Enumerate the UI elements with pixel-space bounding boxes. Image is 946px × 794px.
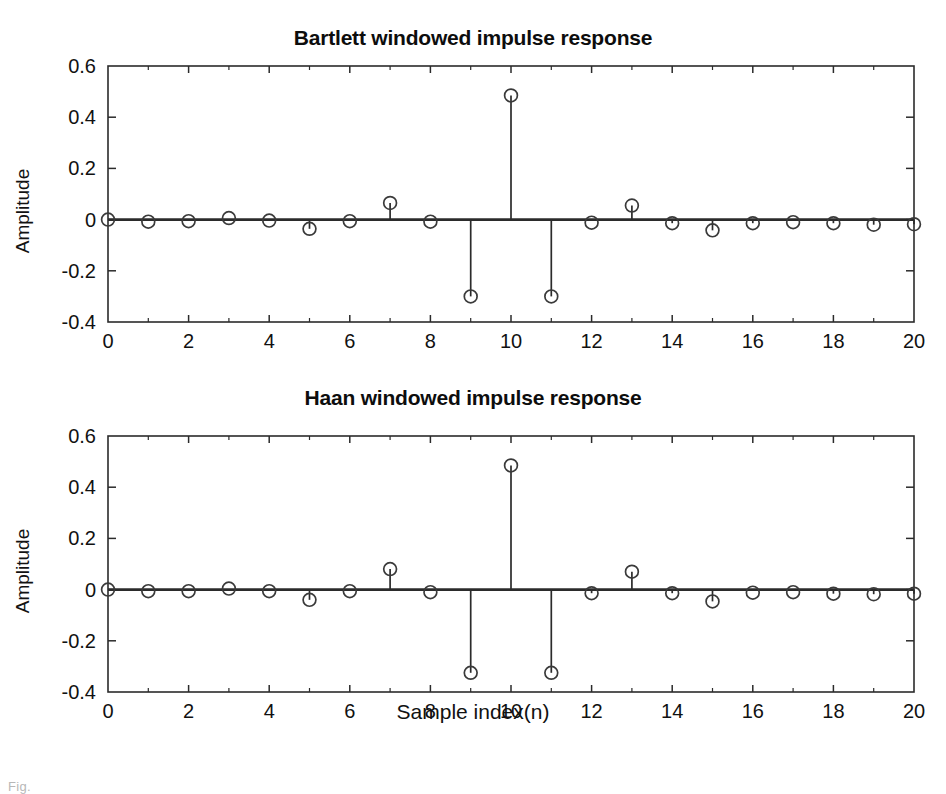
x-tick-label: 8 bbox=[425, 330, 436, 352]
y-tick-label: 0.4 bbox=[68, 106, 96, 128]
y-tick-label: -0.4 bbox=[62, 311, 96, 333]
stem-marker bbox=[142, 585, 155, 598]
y-tick-label: -0.2 bbox=[62, 260, 96, 282]
y-tick-label: 0 bbox=[85, 579, 96, 601]
x-tick-label: 4 bbox=[264, 330, 275, 352]
x-tick-label: 16 bbox=[742, 330, 764, 352]
stem-marker bbox=[343, 585, 356, 598]
stem-marker bbox=[263, 585, 276, 598]
stem-marker bbox=[746, 586, 759, 599]
x-axis-label-haan: Sample index(n) bbox=[0, 700, 946, 724]
stem-marker bbox=[585, 216, 598, 229]
stem-marker bbox=[787, 216, 800, 229]
y-tick-label: 0.6 bbox=[68, 55, 96, 77]
stem-marker bbox=[424, 586, 437, 599]
figure-stem-plots: Bartlett windowed impulse response Ampli… bbox=[0, 0, 946, 794]
x-tick-label: 20 bbox=[903, 330, 925, 352]
y-tick-label: 0.4 bbox=[68, 476, 96, 498]
plot-panel-bartlett: Bartlett windowed impulse response Ampli… bbox=[0, 14, 946, 374]
stem-plot-haan: 02468101214161820-0.4-0.200.20.40.6 bbox=[0, 374, 946, 744]
stem-marker bbox=[142, 215, 155, 228]
x-tick-label: 10 bbox=[500, 330, 522, 352]
plot-panel-haan: Haan windowed impulse response Amplitude… bbox=[0, 374, 946, 744]
stem-marker bbox=[424, 215, 437, 228]
x-tick-label: 14 bbox=[661, 330, 683, 352]
y-tick-label: -0.2 bbox=[62, 630, 96, 652]
x-tick-label: 0 bbox=[102, 330, 113, 352]
stem-marker bbox=[787, 586, 800, 599]
stem-marker bbox=[182, 215, 195, 228]
stem-marker bbox=[223, 212, 236, 225]
y-tick-label: 0.2 bbox=[68, 527, 96, 549]
stem-marker bbox=[343, 215, 356, 228]
stem-plot-bartlett: 02468101214161820-0.4-0.200.20.40.6 bbox=[0, 14, 946, 374]
y-tick-label: 0.6 bbox=[68, 425, 96, 447]
x-tick-label: 18 bbox=[822, 330, 844, 352]
x-tick-label: 2 bbox=[183, 330, 194, 352]
x-tick-label: 6 bbox=[344, 330, 355, 352]
y-tick-label: 0 bbox=[85, 209, 96, 231]
figure-caption: Fig. bbox=[8, 779, 31, 794]
stem-marker bbox=[182, 585, 195, 598]
x-tick-label: 12 bbox=[580, 330, 602, 352]
y-tick-label: 0.2 bbox=[68, 157, 96, 179]
